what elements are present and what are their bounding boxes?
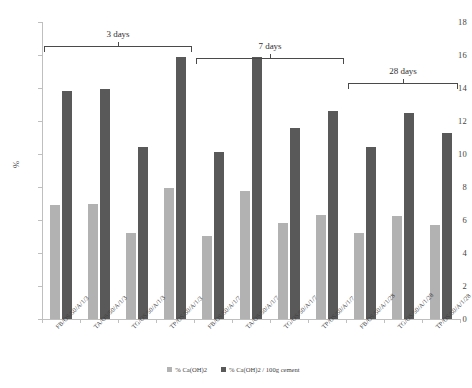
legend-label: % Ca(OH)2 / 100g cement: [229, 366, 300, 373]
chart-legend: % Ca(OH)2% Ca(OH)2 / 100g cement: [0, 366, 467, 373]
bar: [62, 91, 73, 319]
bar: [240, 191, 251, 319]
group-bracket-tick: [118, 42, 119, 47]
bar: [328, 111, 339, 319]
legend-swatch: [167, 367, 172, 372]
bar: [214, 152, 225, 319]
bar: [392, 216, 403, 319]
y-axis-title: %: [11, 161, 21, 168]
group-bracket-label: 3 days: [78, 30, 158, 39]
bar: [354, 233, 365, 319]
bar: [404, 113, 415, 319]
group-bracket-tick: [403, 79, 404, 84]
bar: [430, 225, 441, 319]
bar: [100, 89, 111, 319]
x-tick-mark: [422, 319, 423, 323]
bar: [442, 133, 453, 319]
x-tick-mark: [346, 319, 347, 323]
x-tick-mark: [42, 319, 43, 323]
group-bracket-label: 28 days: [363, 67, 443, 76]
x-tick-mark: [232, 319, 233, 323]
x-tick-mark: [460, 319, 461, 323]
x-tick-mark: [308, 319, 309, 323]
legend-swatch: [221, 367, 226, 372]
x-tick-mark: [384, 319, 385, 323]
bar: [50, 205, 61, 319]
x-tick-mark: [80, 319, 81, 323]
bar: [278, 223, 289, 319]
bar: [316, 215, 327, 319]
bar: [138, 147, 149, 319]
bar: [126, 233, 137, 319]
x-tick-mark: [270, 319, 271, 323]
bar: [176, 57, 187, 319]
x-tick-mark: [194, 319, 195, 323]
bar: [252, 57, 263, 319]
legend-item: % Ca(OH)2: [167, 366, 207, 373]
x-tick-mark: [156, 319, 157, 323]
legend-item: % Ca(OH)2 / 100g cement: [221, 366, 300, 373]
x-tick-mark: [118, 319, 119, 323]
bar: [202, 236, 213, 319]
group-bracket-label: 7 days: [230, 42, 310, 51]
bar: [290, 128, 301, 319]
legend-label: % Ca(OH)2: [175, 366, 207, 373]
bar: [366, 147, 377, 319]
bar: [88, 204, 99, 320]
group-bracket-tick: [270, 54, 271, 59]
